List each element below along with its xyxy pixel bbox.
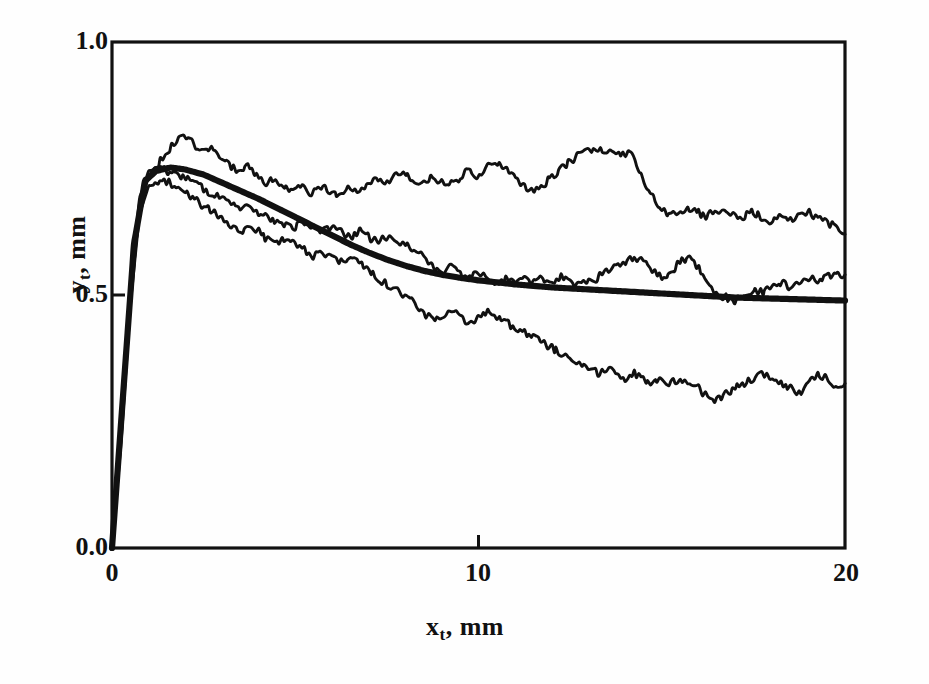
series-lower-noisy-trace <box>112 179 845 548</box>
data-series-group <box>112 135 845 548</box>
figure-container: 1.0 0.5 0.0 0 10 20 yt, mm xt, mm <box>0 0 929 684</box>
x-axis-label: xt, mm <box>345 612 585 645</box>
x-tick-label-0: 0 <box>92 558 132 588</box>
y-tick-label-1.0: 1.0 <box>56 26 108 56</box>
x-tick-label-10: 10 <box>458 558 498 588</box>
y-axis-label-subscript: t <box>75 274 94 280</box>
x-axis-label-tail: , mm <box>446 612 504 641</box>
series-middle-noisy-trace <box>112 166 845 548</box>
y-axis-label-main: y <box>62 280 91 294</box>
x-tick-label-20: 20 <box>824 558 868 588</box>
y-axis-label-tail: , mm <box>62 216 91 274</box>
axis-ticks <box>112 295 479 548</box>
series-smooth-fitted-curve <box>112 167 845 548</box>
y-axis-label: yt, mm <box>62 185 95 325</box>
x-axis-label-main: x <box>426 612 440 641</box>
